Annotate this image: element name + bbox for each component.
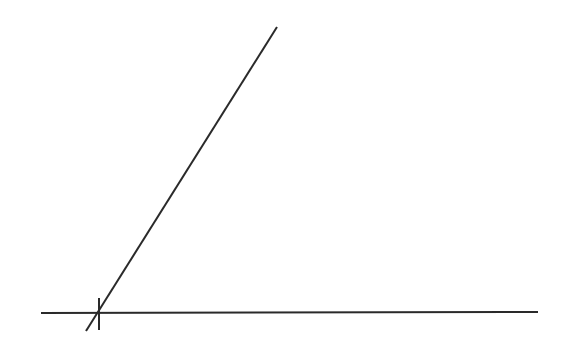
- baseline-line: [41, 312, 538, 313]
- diagonal-ray-line: [86, 27, 277, 331]
- angle-construction-diagram: [0, 0, 574, 360]
- diagram-canvas: [0, 0, 574, 360]
